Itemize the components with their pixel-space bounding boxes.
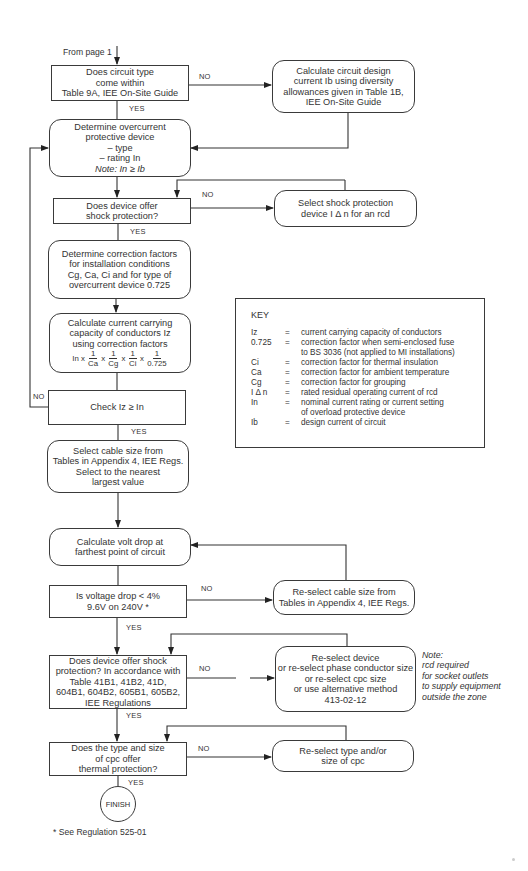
text: Does circuit type: [86, 67, 154, 77]
edge-label-no: NO: [202, 190, 214, 199]
terminal-finish[interactable]: FINISH: [100, 786, 136, 822]
text: Does the type and size: [71, 743, 164, 753]
note-text: Note: In ≥ Ib: [95, 164, 145, 174]
decision-check-iz-in[interactable]: Check Iz ≥ In: [48, 390, 186, 425]
text: IEE On-Site Guide: [306, 97, 382, 107]
text: come within: [96, 78, 145, 88]
text: or use alternative method: [294, 684, 398, 694]
edge-label-no: NO: [199, 72, 211, 81]
edge-label-yes: YES: [129, 104, 145, 113]
text: Re-select cable size from: [292, 587, 395, 597]
text: size of cpc: [321, 756, 364, 766]
edge-label-no: NO: [199, 664, 211, 673]
key-row: In=nominal current rating or current set…: [251, 398, 474, 418]
footnote: * See Regulation 525-01: [53, 827, 147, 837]
text: or re-select cpc size: [305, 674, 387, 684]
formula-times: x: [140, 354, 144, 363]
text: Is voltage drop < 4%: [76, 591, 160, 601]
side-note: Note: rcd required for socket outlets to…: [422, 650, 501, 702]
key-row: 0.725=correction factor when semi-enclos…: [251, 338, 474, 358]
decision-shock-regulations[interactable]: Does device offer shock protection? In a…: [49, 655, 187, 709]
text: protection? In accordance with: [56, 666, 181, 676]
formula-lead: In: [72, 354, 79, 363]
text: 413-02-12: [325, 695, 367, 705]
fraction: 1Ca: [88, 349, 98, 368]
text: Determine overcurrent: [74, 122, 165, 132]
formula-times: x: [121, 354, 125, 363]
text: current Ib using diversity: [294, 76, 394, 86]
text: Calculate volt drop at: [77, 537, 163, 547]
text: device I Δ n for an rcd: [301, 209, 390, 219]
process-current-capacity[interactable]: Calculate current carrying capacity of c…: [49, 313, 191, 373]
key-row: Ib=design current of circuit: [251, 418, 474, 428]
text: Select shock protection: [298, 198, 393, 208]
process-reselect-cpc[interactable]: Re-select type and/or size of cpc: [272, 740, 414, 772]
text: for installation conditions: [69, 259, 170, 269]
key-row: Cg=correction factor for grouping: [251, 378, 474, 388]
text: largest value: [92, 477, 144, 487]
text: Table 9A, IEE On-Site Guide: [62, 88, 178, 98]
text: or re-select phase conductor size: [278, 663, 413, 673]
decision-circuit-type[interactable]: Does circuit type come within Table 9A, …: [51, 65, 189, 101]
decision-cpc-thermal[interactable]: Does the type and size of cpc offer ther…: [49, 742, 187, 776]
text: using correction factors: [73, 339, 168, 349]
fraction: 1Ci: [129, 349, 137, 368]
entry-label: From page 1: [63, 47, 112, 57]
page-mark: [512, 858, 515, 861]
fraction: 10.725: [147, 349, 167, 368]
key-title: KEY: [251, 310, 474, 320]
text: Re-select device: [312, 653, 380, 663]
process-correction-factors[interactable]: Determine correction factors for install…: [48, 240, 191, 299]
edge-label-no: NO: [198, 744, 210, 753]
text: Calculate circuit design: [296, 66, 390, 76]
text: Does device offer: [86, 201, 157, 211]
text: 9.6V on 240V *: [87, 602, 149, 612]
text: Select to the nearest: [76, 467, 160, 477]
text: of cpc offer: [95, 754, 140, 764]
process-select-rcd[interactable]: Select shock protection device I Δ n for…: [274, 190, 417, 227]
text: shock protection?: [86, 211, 158, 221]
key-row: Iz=current carrying capacity of conducto…: [251, 328, 474, 338]
text: protective device: [86, 132, 155, 142]
formula-times: x: [81, 354, 85, 363]
text: Does device offer shock: [69, 656, 167, 666]
process-volt-drop[interactable]: Calculate volt drop at farthest point of…: [49, 528, 191, 566]
process-design-current[interactable]: Calculate circuit design current Ib usin…: [272, 60, 415, 113]
text: overcurrent device 0.725: [69, 280, 170, 290]
text: Table 41B1, 41B2, 41D,: [69, 677, 166, 687]
edge-label-yes: YES: [130, 227, 146, 236]
text: Cg, Ca, Ci and for type of: [68, 270, 172, 280]
formula: In x 1Ca x 1Cg x 1Ci x 10.725: [72, 349, 167, 368]
text: 604B1, 604B2, 605B1, 605B2,: [56, 687, 180, 697]
decision-shock-protection[interactable]: Does device offer shock protection?: [53, 198, 191, 224]
text: Tables in Appendix 4, IEE Regs.: [53, 456, 184, 466]
legend-key: KEY Iz=current carrying capacity of cond…: [235, 298, 485, 448]
edge-label-no: NO: [33, 392, 45, 401]
process-overcurrent-device[interactable]: Determine overcurrent protective device …: [49, 119, 191, 177]
text: IEE Regulations: [85, 698, 151, 708]
process-reselect-device[interactable]: Re-select device or re-select phase cond…: [275, 646, 416, 712]
key-row: I Δ n=rated residual operating current o…: [251, 388, 474, 398]
text: farthest point of circuit: [75, 547, 165, 557]
text: thermal protection?: [79, 764, 158, 774]
text: Select cable size from: [73, 446, 163, 456]
key-row: Ca=correction factor for ambient tempera…: [251, 368, 474, 378]
process-select-cable[interactable]: Select cable size from Tables in Appendi…: [47, 440, 189, 493]
text: Check Iz ≥ In: [90, 402, 144, 412]
fraction: 1Cg: [108, 349, 118, 368]
decision-voltage-drop[interactable]: Is voltage drop < 4% 9.6V on 240V *: [49, 585, 187, 618]
edge-label-yes: YES: [126, 711, 142, 720]
edge-label-yes: YES: [126, 623, 142, 632]
text: capacity of conductors Iz: [69, 328, 170, 338]
formula-times: x: [101, 354, 105, 363]
edge-label-no: NO: [201, 584, 213, 593]
edge-label-yes: YES: [131, 427, 147, 436]
edge-label-yes: YES: [128, 778, 144, 787]
text: Calculate current carrying: [68, 318, 173, 328]
process-reselect-cable[interactable]: Re-select cable size from Tables in Appe…: [273, 580, 415, 615]
key-row: Ci=correction factor for thermal insulat…: [251, 358, 474, 368]
text: – type: [107, 143, 132, 153]
text: allowances given in Table 1B,: [283, 87, 403, 97]
text: Tables in Appendix 4, IEE Regs.: [279, 598, 410, 608]
text: Determine correction factors: [62, 249, 177, 259]
